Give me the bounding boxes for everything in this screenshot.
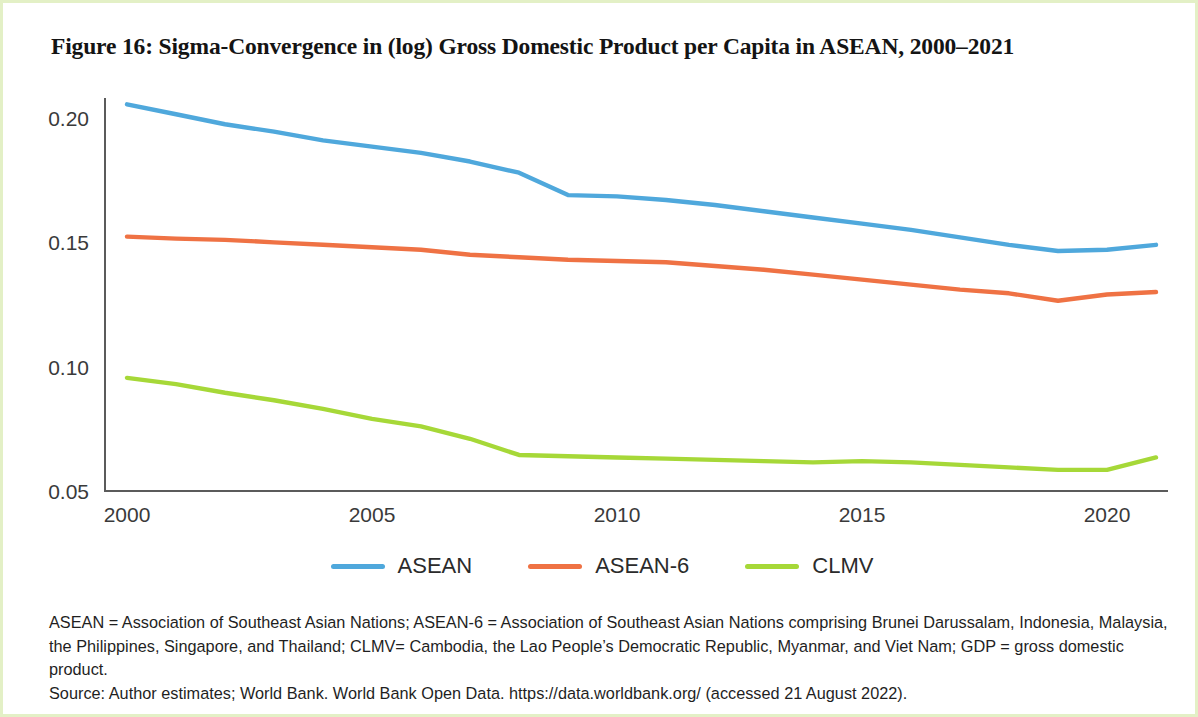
legend-label: ASEAN-6	[595, 553, 689, 579]
figure-container: Figure 16: Sigma-Convergence in (log) Gr…	[0, 0, 1198, 717]
line-chart: 0.050.100.150.2020002005201020152020	[3, 3, 1198, 548]
legend-item-clmv[interactable]: CLMV	[745, 553, 873, 579]
legend-item-asean[interactable]: ASEAN	[331, 553, 473, 579]
x-axis-tick-label: 2000	[104, 503, 151, 526]
legend-label: CLMV	[812, 553, 873, 579]
chart-legend: ASEANASEAN-6CLMV	[3, 553, 1198, 579]
y-axis-tick-label: 0.20	[48, 107, 89, 130]
series-line-asean-6	[127, 237, 1156, 301]
y-axis-tick-label: 0.05	[48, 480, 89, 503]
notes-definitions: ASEAN = Association of Southeast Asian N…	[49, 611, 1175, 682]
legend-swatch-icon	[528, 564, 582, 569]
legend-swatch-icon	[331, 564, 385, 569]
x-axis-tick-label: 2020	[1084, 503, 1131, 526]
notes-source: Source: Author estimates; World Bank. Wo…	[49, 682, 1175, 706]
legend-item-asean-6[interactable]: ASEAN-6	[528, 553, 689, 579]
x-axis-tick-label: 2005	[349, 503, 396, 526]
legend-swatch-icon	[745, 564, 799, 569]
series-line-asean	[127, 104, 1156, 251]
x-axis-tick-label: 2015	[839, 503, 886, 526]
chart-plot-area: 0.050.100.150.2020002005201020152020	[3, 3, 1198, 717]
x-axis-tick-label: 2010	[594, 503, 641, 526]
y-axis-tick-label: 0.15	[48, 231, 89, 254]
legend-label: ASEAN	[398, 553, 473, 579]
series-line-clmv	[127, 378, 1156, 470]
y-axis-tick-label: 0.10	[48, 356, 89, 379]
figure-notes: ASEAN = Association of Southeast Asian N…	[49, 611, 1175, 705]
